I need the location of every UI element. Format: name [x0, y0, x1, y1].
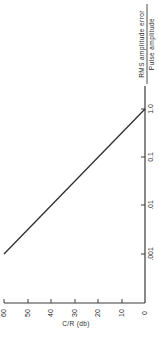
- y-tick-label: 10: [118, 309, 125, 317]
- y-axis-label-text: C/R (db): [62, 320, 90, 328]
- chart-svg: 1.0 0.1 .01 .001 0 10 20 30 40 50 60 C/R…: [0, 0, 159, 351]
- y-tick-label: 40: [47, 309, 54, 317]
- x-tick-label: .001: [147, 247, 154, 261]
- y-tick-label: 0: [141, 311, 148, 315]
- data-line: [4, 109, 145, 254]
- chart: 1.0 0.1 .01 .001 0 10 20 30 40 50 60 C/R…: [0, 0, 159, 351]
- y-tick-label: 20: [94, 309, 101, 317]
- x-tick-label: 1.0: [147, 104, 154, 114]
- x-axis-label-denominator: Pulse amplitude: [148, 18, 156, 70]
- x-axis-label: RMS amplitude error Pulse amplitude: [138, 4, 156, 84]
- y-tick-label: 60: [0, 309, 7, 317]
- y-axis-label-group: C/R (db): [62, 320, 90, 328]
- y-tick-label: 50: [24, 309, 31, 317]
- y-tick-label: 30: [71, 309, 78, 317]
- x-tick-label: .01: [147, 200, 154, 210]
- x-tick-label: 0.1: [147, 152, 154, 162]
- x-axis-label-numerator: RMS amplitude error: [138, 10, 146, 78]
